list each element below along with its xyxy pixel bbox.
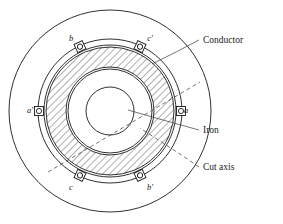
terminal-box-a_prime [35, 107, 44, 116]
figure-canvas: ConductorIronCut axis bc'aa'b'c [0, 0, 283, 224]
terminal-box-a [177, 107, 186, 116]
machine-cross-section-diagram [0, 0, 283, 224]
terminal-hole [36, 108, 41, 113]
terminal-hole [178, 108, 183, 113]
shaft-hole-circle [86, 87, 134, 135]
